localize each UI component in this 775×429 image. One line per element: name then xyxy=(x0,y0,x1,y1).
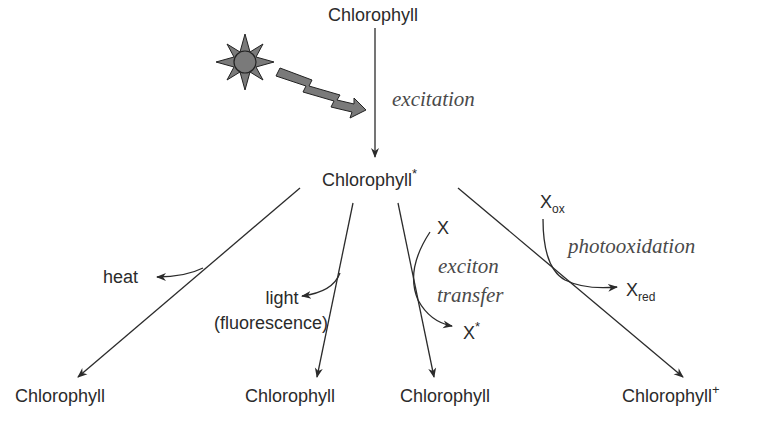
chlorophyll-diagram: Chlorophyll excitation Chlorophyll* heat… xyxy=(0,0,775,429)
sun-icon xyxy=(216,34,274,90)
x-red-label: Xred xyxy=(626,280,655,304)
x-ox-label: Xox xyxy=(540,192,565,216)
fluorescence-label: (fluorescence) xyxy=(214,313,328,333)
excited-chlorophyll-label: Chlorophyll* xyxy=(322,166,417,190)
top-chlorophyll-label: Chlorophyll xyxy=(328,5,418,25)
exciton-pathway-arrow xyxy=(398,203,434,377)
exciton-label: exciton xyxy=(438,254,499,278)
transfer-label: transfer xyxy=(437,283,504,307)
photooxidation-label: photooxidation xyxy=(566,234,695,258)
heat-label: heat xyxy=(103,267,138,287)
x-reactant-label: X xyxy=(437,218,449,238)
product-chlorophyll-exciton: Chlorophyll xyxy=(400,386,490,406)
exciton-transfer-arrow xyxy=(414,232,452,326)
product-chlorophyll-heat: Chlorophyll xyxy=(15,386,105,406)
light-label: light xyxy=(265,288,298,308)
product-chlorophyll-cation: Chlorophyll+ xyxy=(622,382,720,406)
excitation-label: excitation xyxy=(392,87,475,111)
product-chlorophyll-fluorescence: Chlorophyll xyxy=(245,386,335,406)
x-excited-label: X* xyxy=(463,319,480,343)
lightning-arrow-icon xyxy=(276,68,366,118)
